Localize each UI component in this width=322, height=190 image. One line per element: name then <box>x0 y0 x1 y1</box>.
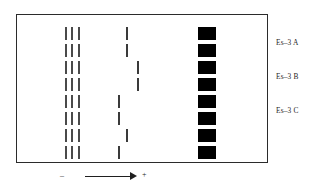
lane-row <box>0 43 252 59</box>
allozyme-band <box>71 95 73 108</box>
lane-row <box>0 128 252 144</box>
lane-row <box>0 60 252 76</box>
allozyme-band <box>71 78 73 91</box>
allozyme-band <box>71 129 73 142</box>
reference-band-block <box>198 78 216 91</box>
genotype-label: Es–3 C <box>276 106 298 115</box>
allozyme-band <box>78 112 80 125</box>
allozyme-band <box>65 112 67 125</box>
migration-axis: – + <box>0 166 322 186</box>
zymogram-figure: Es–3 AEs–3 BEs–3 C – + <box>0 0 322 190</box>
lane-row <box>0 94 252 110</box>
allozyme-band <box>78 146 80 159</box>
allozyme-band <box>71 44 73 57</box>
variable-allozyme-band <box>126 27 128 40</box>
reference-band-block <box>198 129 216 142</box>
cathode-minus-label: – <box>60 172 64 180</box>
allozyme-band <box>78 95 80 108</box>
allozyme-band <box>65 78 67 91</box>
reference-band-block <box>198 61 216 74</box>
migration-arrow-line <box>85 176 132 177</box>
reference-band-block <box>198 27 216 40</box>
allozyme-band <box>78 44 80 57</box>
variable-allozyme-band <box>137 78 139 91</box>
allozyme-band <box>71 112 73 125</box>
allozyme-band <box>78 27 80 40</box>
genotype-label: Es–3 A <box>276 38 298 47</box>
allozyme-band <box>65 129 67 142</box>
lane-row <box>0 145 252 161</box>
lane-row <box>0 111 252 127</box>
variable-allozyme-band <box>126 44 128 57</box>
genotype-label: Es–3 B <box>276 72 298 81</box>
lane-row <box>0 26 252 42</box>
allozyme-band <box>65 44 67 57</box>
reference-band-block <box>198 44 216 57</box>
allozyme-band <box>71 27 73 40</box>
variable-allozyme-band <box>118 112 120 125</box>
variable-allozyme-band <box>126 129 128 142</box>
variable-allozyme-band <box>118 95 120 108</box>
anode-plus-label: + <box>142 171 147 179</box>
allozyme-band <box>71 61 73 74</box>
allozyme-band <box>78 78 80 91</box>
allozyme-band <box>65 95 67 108</box>
reference-band-block <box>198 146 216 159</box>
allozyme-band <box>78 129 80 142</box>
variable-allozyme-band <box>118 146 120 159</box>
migration-arrow-head <box>130 172 137 180</box>
allozyme-band <box>65 27 67 40</box>
variable-allozyme-band <box>137 61 139 74</box>
lane-row <box>0 77 252 93</box>
allozyme-band <box>71 146 73 159</box>
reference-band-block <box>198 112 216 125</box>
allozyme-band <box>65 61 67 74</box>
allozyme-band <box>65 146 67 159</box>
reference-band-block <box>198 95 216 108</box>
allozyme-band <box>78 61 80 74</box>
